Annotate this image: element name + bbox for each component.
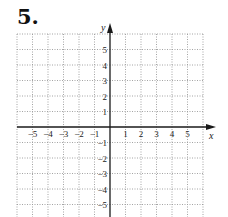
x-tick-label: −2: [74, 129, 84, 139]
x-tick-label: 3: [154, 129, 159, 139]
x-tick-label: −5: [28, 129, 38, 139]
y-axis-label: y: [100, 22, 106, 33]
x-tick-label: 1: [123, 129, 128, 139]
axes: [17, 23, 216, 217]
x-tick-label: 4: [170, 129, 175, 139]
y-tick-label: 1: [103, 107, 108, 117]
y-tick-label: −5: [97, 200, 107, 210]
x-axis-label: x: [208, 130, 214, 141]
y-axis-arrow-icon: [107, 23, 113, 33]
x-tick-label: −3: [59, 129, 69, 139]
y-tick-label: 2: [103, 92, 108, 102]
y-tick-label: −1: [97, 138, 107, 148]
coordinate-grid: −5−4−3−2−11234554321−1−2−3−4−5 x y: [0, 0, 228, 217]
y-tick-label: −3: [97, 169, 107, 179]
y-tick-label: 5: [103, 45, 108, 55]
y-tick-label: 4: [103, 61, 108, 71]
x-tick-label: −4: [43, 129, 53, 139]
x-tick-label: 2: [139, 129, 144, 139]
x-tick-label: 5: [185, 129, 190, 139]
y-tick-label: −4: [97, 185, 107, 195]
y-tick-label: −2: [97, 154, 107, 164]
y-tick-label: 3: [103, 76, 108, 86]
